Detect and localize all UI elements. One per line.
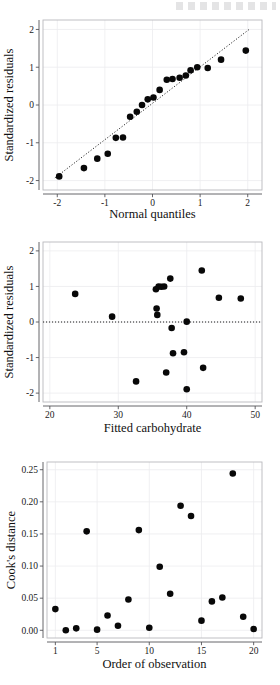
- data-point: [120, 134, 127, 141]
- data-point: [146, 624, 153, 631]
- y-tick-label: 0.05: [21, 593, 38, 603]
- y-tick-label: 0.25: [21, 465, 38, 475]
- data-point: [127, 113, 134, 120]
- data-point: [176, 75, 183, 82]
- data-point: [163, 76, 170, 83]
- x-tick-label: 2: [245, 198, 250, 208]
- x-tick-label: 50: [250, 410, 260, 420]
- data-point: [194, 64, 201, 71]
- x-axis-title: Normal quantiles: [109, 207, 196, 221]
- data-point: [94, 155, 101, 162]
- x-tick-label: 1: [198, 198, 203, 208]
- x-tick-label: 30: [114, 410, 124, 420]
- y-axis-title: Standardized residuals: [2, 48, 16, 161]
- data-point: [125, 596, 132, 603]
- data-point: [169, 76, 176, 83]
- data-point: [81, 165, 88, 172]
- data-point: [73, 625, 80, 632]
- x-tick-label: 15: [197, 646, 207, 656]
- x-tick-label: -1: [101, 198, 109, 208]
- x-axis-title: Fitted carbohydrate: [104, 421, 202, 435]
- data-point: [187, 67, 194, 74]
- data-point: [181, 349, 188, 356]
- x-tick-label: 20: [249, 646, 259, 656]
- x-tick-label: 5: [95, 646, 100, 656]
- y-tick-label: 1: [29, 63, 34, 73]
- y-axis-title: Standardized residuals: [2, 265, 16, 378]
- data-point: [52, 606, 59, 613]
- data-point: [154, 312, 161, 319]
- data-point: [209, 598, 216, 605]
- y-axis-title: Cook's distance: [4, 510, 18, 589]
- qq-plot-canvas: -2-1012-2-1012Normal quantilesStandardiz…: [0, 8, 280, 223]
- data-point: [156, 563, 163, 570]
- data-point: [115, 623, 122, 630]
- data-point: [153, 305, 160, 312]
- data-point: [240, 614, 247, 621]
- y-tick-label: 0.00: [21, 626, 38, 636]
- data-point: [156, 87, 163, 94]
- y-tick-label: 0.10: [21, 561, 38, 571]
- residuals-vs-fitted-canvas: 20304050-2-1012Fitted carbohydrateStanda…: [0, 232, 280, 440]
- data-point: [250, 626, 257, 633]
- y-tick-label: -1: [26, 138, 34, 148]
- data-point: [198, 617, 205, 624]
- data-point: [229, 470, 236, 477]
- data-point: [200, 365, 207, 372]
- data-point: [136, 527, 143, 534]
- x-tick-label: 10: [145, 646, 155, 656]
- y-tick-label: 1: [29, 282, 34, 292]
- data-point: [237, 295, 244, 302]
- data-point: [170, 350, 177, 357]
- data-point: [198, 267, 205, 274]
- data-point: [83, 528, 90, 535]
- data-point: [56, 173, 63, 180]
- data-point: [188, 513, 195, 520]
- y-tick-label: 0: [29, 100, 34, 110]
- qq-plot-figure: -2-1012-2-1012Normal quantilesStandardiz…: [0, 8, 280, 223]
- x-tick-label: 20: [45, 410, 55, 420]
- data-point: [243, 47, 250, 54]
- y-tick-label: 0.15: [21, 529, 38, 539]
- data-point: [216, 295, 223, 302]
- data-point: [133, 109, 140, 116]
- y-tick-label: 0.20: [21, 497, 38, 507]
- data-point: [183, 72, 190, 79]
- data-point: [62, 627, 69, 634]
- data-point: [204, 65, 211, 72]
- data-point: [104, 612, 111, 619]
- y-tick-label: -2: [26, 388, 34, 398]
- x-tick-label: 40: [182, 410, 192, 420]
- data-point: [161, 283, 168, 290]
- data-point: [144, 96, 151, 103]
- data-point: [163, 369, 170, 376]
- x-tick-label: 0: [150, 198, 155, 208]
- data-point: [104, 150, 111, 157]
- y-tick-label: 2: [29, 25, 34, 35]
- x-axis-title: Order of observation: [102, 657, 207, 671]
- y-tick-label: 0: [29, 317, 34, 327]
- data-point: [72, 291, 79, 298]
- data-point: [177, 502, 184, 509]
- y-tick-label: -1: [26, 353, 34, 363]
- residuals-vs-fitted-figure: 20304050-2-1012Fitted carbohydrateStanda…: [0, 232, 280, 440]
- cooks-distance-figure: 151015200.000.050.100.150.200.25Order of…: [0, 452, 280, 680]
- data-point: [94, 626, 101, 633]
- data-point: [219, 594, 226, 601]
- plot-panel-border: [47, 462, 262, 638]
- x-tick-label: -2: [53, 198, 61, 208]
- y-tick-label: -2: [26, 176, 34, 186]
- data-point: [113, 135, 120, 142]
- data-point: [183, 386, 190, 393]
- data-point: [168, 325, 175, 332]
- diagnostics-figure-page: -2-1012-2-1012Normal quantilesStandardiz…: [0, 0, 280, 685]
- data-point: [167, 590, 174, 597]
- data-point: [183, 318, 190, 325]
- data-point: [218, 56, 225, 63]
- data-point: [167, 275, 174, 282]
- cooks-distance-canvas: 151015200.000.050.100.150.200.25Order of…: [0, 452, 280, 680]
- data-point: [139, 102, 146, 109]
- data-point: [133, 378, 140, 385]
- y-tick-label: 2: [29, 246, 34, 256]
- x-tick-label: 1: [53, 646, 58, 656]
